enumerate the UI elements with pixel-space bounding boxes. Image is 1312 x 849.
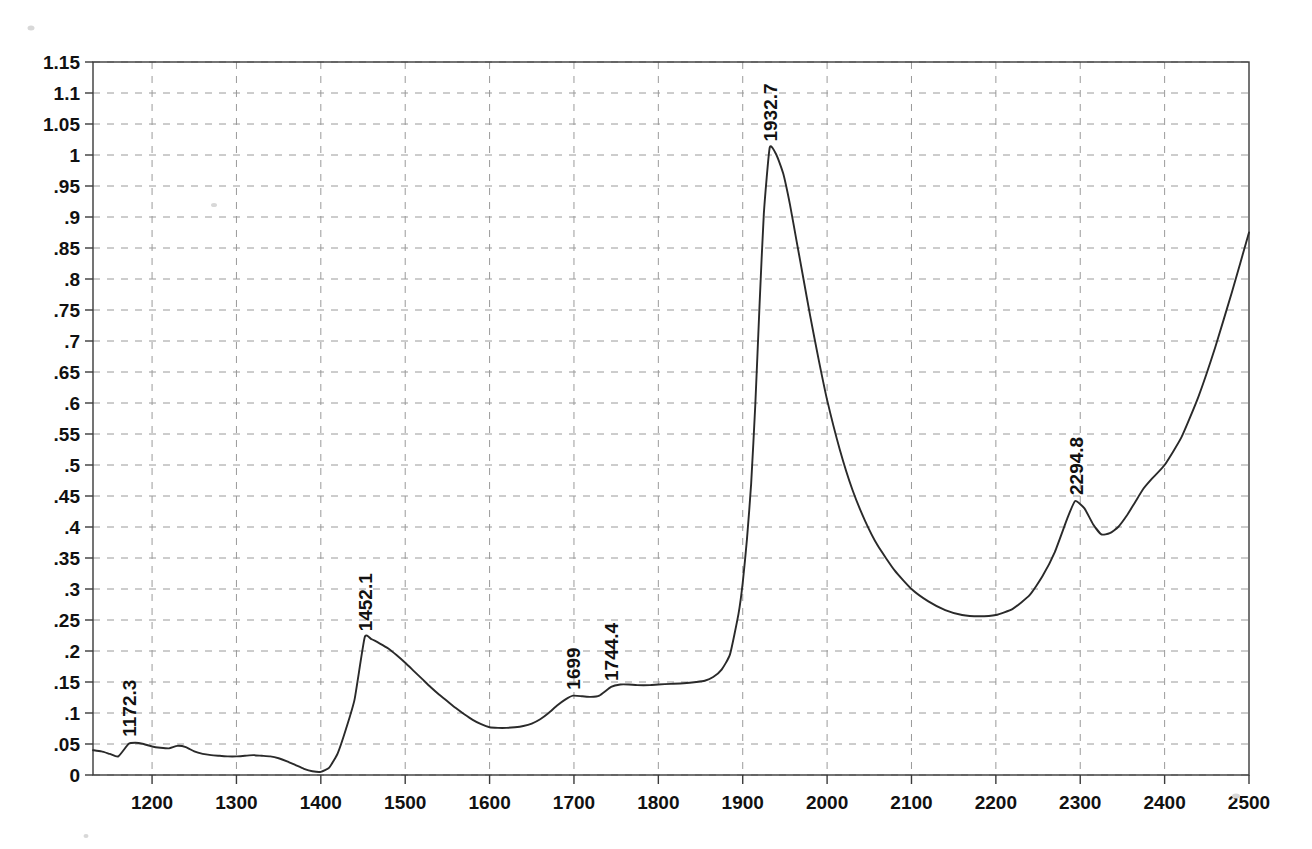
x-tick-label: 1900 [722,792,764,813]
y-tick-label: .95 [54,176,81,197]
scan-speck [28,26,35,31]
y-tick-label: .55 [54,424,81,445]
x-tick-label: 1400 [300,792,342,813]
y-tick-label: .8 [64,269,80,290]
y-tick-label: .4 [64,517,80,538]
peak-annotation-label: 1932.7 [760,83,781,141]
x-tick-label: 1500 [384,792,426,813]
x-tick-label: 2000 [806,792,848,813]
x-tick-label: 1600 [468,792,510,813]
x-tick-label: 1700 [553,792,595,813]
x-tick-label: 1800 [637,792,679,813]
y-tick-label: 1.15 [43,52,80,73]
peak-annotation-label: 2294.8 [1066,437,1087,495]
y-tick-label: .7 [64,331,80,352]
y-tick-label: .25 [54,610,81,631]
chart-background [0,0,1312,849]
spectrum-chart-container: 0.05.1.15.2.25.3.35.4.45.5.55.6.65.7.75.… [0,0,1312,849]
x-tick-label: 2400 [1143,792,1185,813]
y-tick-label: .05 [54,734,81,755]
x-tick-label: 2100 [890,792,932,813]
y-tick-label: 1.05 [43,114,80,135]
peak-annotation-label: 1699 [563,647,584,689]
y-tick-label: 0 [69,765,80,786]
y-tick-label: .5 [64,455,80,476]
y-tick-label: .65 [54,362,81,383]
y-tick-label: .2 [64,641,80,662]
y-tick-label: 1 [69,145,80,166]
x-tick-label: 1300 [215,792,257,813]
x-tick-label: 1200 [131,792,173,813]
peak-annotation-label: 1744.4 [601,622,622,681]
scan-speck [84,834,89,838]
x-tick-label: 2300 [1059,792,1101,813]
peak-annotation-label: 1452.1 [355,573,376,632]
y-tick-label: .85 [54,238,81,259]
spectrum-plot: 0.05.1.15.2.25.3.35.4.45.5.55.6.65.7.75.… [0,0,1312,849]
x-tick-label: 2200 [975,792,1017,813]
scan-speck [1232,794,1240,799]
y-tick-label: .3 [64,579,80,600]
y-tick-label: .6 [64,393,80,414]
y-tick-label: .15 [54,672,81,693]
y-tick-label: .9 [64,207,80,228]
peak-annotation-label: 1172.3 [119,680,140,737]
y-tick-label: .75 [54,300,81,321]
y-tick-label: 1.1 [54,83,81,104]
y-tick-label: .35 [54,548,81,569]
y-tick-label: .45 [54,486,81,507]
y-tick-label: .1 [64,703,80,724]
scan-speck [211,203,217,207]
